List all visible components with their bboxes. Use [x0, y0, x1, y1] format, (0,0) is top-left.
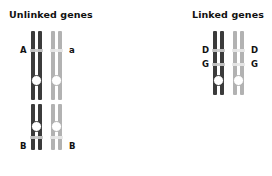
chromosome-b-maternal — [30, 104, 43, 150]
gene-locus-band-a — [50, 49, 63, 52]
chromosome-b-paternal — [50, 104, 63, 150]
panel-title-linked: Linked genes — [192, 9, 264, 20]
chromosome-a-paternal — [50, 31, 63, 100]
chromatid — [31, 31, 35, 100]
allele-label-G-right: G — [251, 60, 258, 69]
centromere — [31, 121, 42, 132]
chromosome-dg-paternal — [232, 31, 245, 95]
gene-locus-band-a — [30, 49, 43, 52]
allele-label-G-left: G — [202, 60, 209, 69]
gene-locus-band-b — [30, 136, 43, 139]
centromere — [51, 75, 62, 86]
allele-label-D-right: D — [251, 46, 258, 55]
allele-label-a-recessive: a — [69, 46, 75, 55]
gene-locus-band-g — [212, 63, 225, 66]
panel-title-unlinked: Unlinked genes — [9, 9, 93, 20]
chromosome-a-maternal — [30, 31, 43, 100]
gene-locus-band-g — [232, 63, 245, 66]
centromere — [233, 75, 244, 86]
allele-label-B-left: B — [20, 142, 26, 151]
allele-label-A-dominant: A — [20, 46, 27, 55]
chromosome-pair-a — [30, 31, 66, 100]
gene-locus-band-d — [232, 49, 245, 52]
chromosome-pair-b — [30, 104, 66, 150]
chromosome-pair-dg — [212, 31, 248, 95]
gene-locus-band-d — [212, 49, 225, 52]
centromere — [31, 75, 42, 86]
chromatid — [58, 31, 62, 100]
allele-label-B-right: B — [69, 142, 75, 151]
chromatid — [51, 31, 55, 100]
allele-label-D-left: D — [202, 46, 209, 55]
centromere — [213, 75, 224, 86]
chromosome-dg-maternal — [212, 31, 225, 95]
chromatid — [38, 31, 42, 100]
centromere — [51, 121, 62, 132]
gene-locus-band-b — [50, 136, 63, 139]
